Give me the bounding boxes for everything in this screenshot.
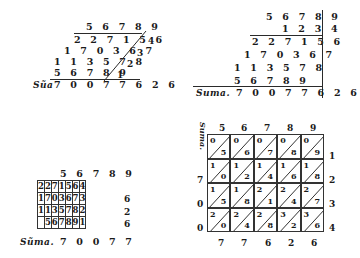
grid-cell: 2 [79,205,86,217]
lattice-cell: 16 [277,159,300,184]
lattice-cell: 18 [301,159,324,184]
grid-cell: 5 [44,217,51,229]
outer-digit: 2 [124,207,130,217]
tens-digit: 0 [304,136,310,145]
grid-cell [38,217,45,229]
grid-cell: 7 [72,193,79,205]
units-digit: 1 [268,197,274,206]
bottom-digit: 6 [265,238,271,248]
multiplicand: 5 6 7 8 9 [60,169,135,179]
tens-digit: 2 [257,185,263,194]
grid-cell: 5 [65,181,72,193]
tens-digit: 1 [210,185,216,194]
tens-digit: 0 [280,136,286,145]
grid-table: 2 2 7 1 5 6 4 1 7 0 3 6 7 3 1 1 3 5 [37,180,86,229]
sum-label: Sũa [33,80,53,90]
lattice-cell: 06 [230,134,253,159]
tens-digit: 2 [257,210,263,219]
lattice-cell: 09 [301,134,324,159]
top-digit: 7 [264,123,270,133]
tens-digit: 1 [304,161,310,170]
grid-cell: 6 [72,181,79,193]
grid-cell: 1 [38,193,45,205]
tens-digit: 2 [210,210,216,219]
grid-cell: 5 [58,205,65,217]
tens-digit: 0 [257,136,263,145]
units-digit: 5 [221,148,227,157]
bottom-digit: 7 [241,238,247,248]
units-digit: 4 [291,197,297,206]
grid-cell: 8 [72,205,79,217]
tens-digit: 1 [233,185,239,194]
lattice-cell: 05 [207,134,230,159]
grid-cell: 7 [51,181,58,193]
left-digit: 7 [197,175,203,185]
units-digit: 6 [244,148,250,157]
grid-row: 5 6 7 8 9 1 [38,217,86,229]
multiplicand: 5 6 7 8 9 [266,12,341,22]
lattice-cell: 18 [230,183,253,208]
sum-label: Suma. [196,88,230,98]
tens-digit: 1 [257,161,263,170]
left-digit: 0 [197,199,203,209]
lattice-cell: 36 [301,208,324,233]
right-digit: 3 [329,199,335,209]
multiplier-digit-2: 2 [127,59,133,69]
tens-digit: 0 [210,136,216,145]
grid-cell: 2 [44,181,51,193]
units-digit: 8 [291,148,297,157]
grid-cell: 3 [51,205,58,217]
right-rule [322,10,323,98]
lattice-cell: 27 [301,183,324,208]
multiplier-digit-3: 3 [137,48,143,58]
lattice-cell: 20 [207,208,230,233]
tens-digit: 3 [280,210,286,219]
grid-cell: 1 [79,217,86,229]
units-digit: 7 [268,148,274,157]
units-digit: 5 [221,197,227,206]
lattice-cell: 07 [254,134,277,159]
units-digit: 6 [291,172,297,181]
sum-value: 7 0 0 7 7 [60,237,135,247]
grid-cell: 9 [72,217,79,229]
grid-cell: 8 [65,217,72,229]
grid-cell: 3 [58,193,65,205]
right-digit: 2 [329,175,335,185]
grid-cell: 2 [38,181,45,193]
grid-cell: 7 [58,217,65,229]
outer-digit: 6 [124,219,130,229]
grid-cell: 7 [44,193,51,205]
lattice-cell: 24 [277,183,300,208]
lattice-cell: 08 [277,134,300,159]
sum-value: 7 0 0 7 7 6 2 6 [236,88,360,98]
units-digit: 8 [314,172,320,181]
sum-label: Sũma. [20,237,54,247]
grid-cell: 3 [79,193,86,205]
grid-row: 1 7 0 3 6 7 3 [38,193,86,205]
tens-digit: 3 [304,210,310,219]
tens-digit: 1 [233,161,239,170]
units-digit: 9 [314,148,320,157]
right-digit: 1 [329,151,335,161]
units-digit: 0 [221,221,227,230]
lattice-cell: 28 [254,208,277,233]
left-digit: 0 [197,223,203,233]
tens-digit: 2 [233,210,239,219]
tens-digit: 2 [280,185,286,194]
units-digit: 8 [268,221,274,230]
lattice-cell: 21 [254,183,277,208]
tens-digit: 1 [280,161,286,170]
grid-row: 1 1 3 5 7 8 2 [38,205,86,217]
units-digit: 0 [221,172,227,181]
units-digit: 8 [244,197,250,206]
right-digit: 4 [329,223,335,233]
partial-product-4: 5 6 7 8 9 [234,76,309,86]
top-digit: 5 [219,123,225,133]
grid-cell: 0 [51,193,58,205]
grid-cell: 1 [38,205,45,217]
lattice-cell: 12 [230,159,253,184]
grid-cell: 1 [44,205,51,217]
lattice-grid: 05 06 07 08 09 10 12 14 16 18 15 18 21 2… [207,134,324,232]
grid-cell: 7 [65,205,72,217]
partial-product-3: 1 1 3 5 7 8 [234,63,325,73]
